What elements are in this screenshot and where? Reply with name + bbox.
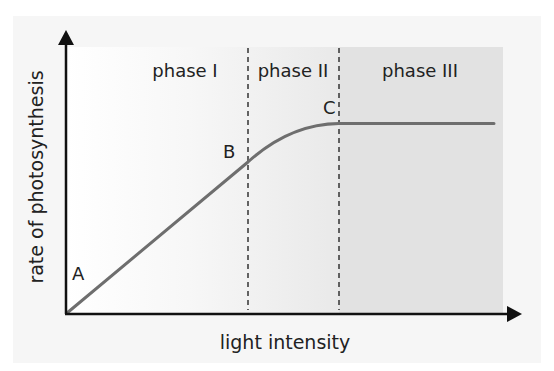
x-axis-arrow-icon (507, 306, 522, 322)
point-c-label: C (323, 97, 336, 118)
phase-1-2-region (66, 47, 339, 314)
photosynthesis-chart: phase I phase II phase III A B C light i… (0, 0, 554, 371)
y-axis-arrow-icon (58, 30, 74, 45)
phase-3-region (339, 47, 503, 314)
phase-2-label: phase II (258, 60, 329, 81)
phase-1-label: phase I (152, 60, 217, 81)
point-a-label: A (72, 263, 85, 284)
point-b-label: B (223, 141, 235, 162)
phase-3-label: phase III (382, 60, 458, 81)
x-axis-label: light intensity (220, 331, 351, 353)
y-axis-label: rate of photosynthesis (25, 70, 47, 283)
